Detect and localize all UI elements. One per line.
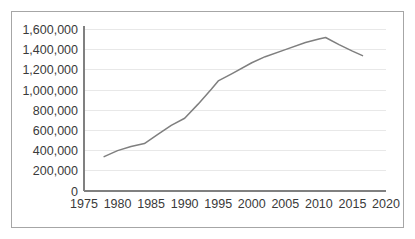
line-chart: 1,600,0001,400,0001,200,0001,000,000800,… (12, 12, 403, 227)
x-tick-label: 2015 (339, 197, 367, 211)
y-tick-label: 1,400,000 (22, 43, 78, 57)
y-tick-label: 600,000 (33, 124, 78, 138)
y-tick-label: 1,200,000 (22, 63, 78, 77)
x-tick-labels: 1975198019851990199520002005201020152020 (70, 197, 400, 211)
x-tick-label: 1985 (137, 197, 165, 211)
y-tick-label: 1,600,000 (22, 23, 78, 37)
data-series-line (104, 37, 362, 156)
y-tick-label: 800,000 (33, 104, 78, 118)
gridlines (84, 29, 386, 170)
x-tick-label: 2020 (372, 197, 400, 211)
y-tick-label: 1,000,000 (22, 84, 78, 98)
x-tick-label: 2010 (305, 197, 333, 211)
chart-card: 1,600,0001,400,0001,200,0001,000,000800,… (11, 11, 404, 228)
x-tick-label: 1975 (70, 197, 98, 211)
x-tick-label: 1980 (104, 197, 132, 211)
x-tick-label: 2005 (271, 197, 299, 211)
x-tick-label: 1990 (171, 197, 199, 211)
x-tick-label: 1995 (204, 197, 232, 211)
x-tick-label: 2000 (238, 197, 266, 211)
y-tick-label: 200,000 (33, 164, 78, 178)
y-tick-label: 400,000 (33, 144, 78, 158)
y-tick-labels: 1,600,0001,400,0001,200,0001,000,000800,… (22, 23, 78, 199)
